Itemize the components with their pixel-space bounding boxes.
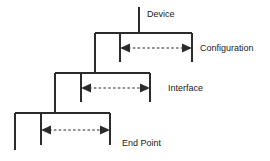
device-label: Device [147,9,175,19]
interface-span-arrow-head-left [81,84,91,93]
level-end-point: End Point [15,113,162,150]
hierarchy-diagram: Device Configuration Interface [0,0,270,161]
interface-label: Interface [168,83,203,93]
level-configuration: Configuration [95,33,254,73]
end-point-span-arrow-head-left [41,126,51,135]
configuration-span-arrow-head-left [120,44,130,53]
end-point-label: End Point [122,138,162,148]
configuration-label: Configuration [200,43,254,53]
configuration-span-arrow-head-right [182,44,192,53]
interface-span-arrow-head-right [140,84,150,93]
level-interface: Interface [55,73,203,113]
end-point-span-arrow-head-right [100,126,110,135]
level-device: Device [139,7,175,33]
diagram-canvas: Device Configuration Interface [0,0,270,161]
